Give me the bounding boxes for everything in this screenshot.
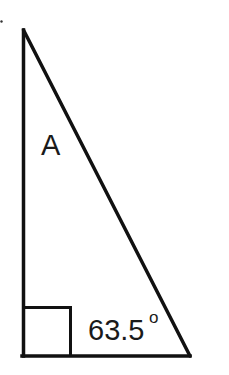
- triangle-svg: A 63.5 o: [0, 0, 229, 375]
- triangle-diagram: A 63.5 o: [0, 0, 229, 375]
- stray-dot: [0, 20, 2, 22]
- degree-symbol: o: [149, 308, 158, 327]
- angle-value-label: 63.5: [88, 314, 144, 346]
- right-angle-marker: [24, 308, 71, 357]
- angle-label-a: A: [41, 129, 61, 161]
